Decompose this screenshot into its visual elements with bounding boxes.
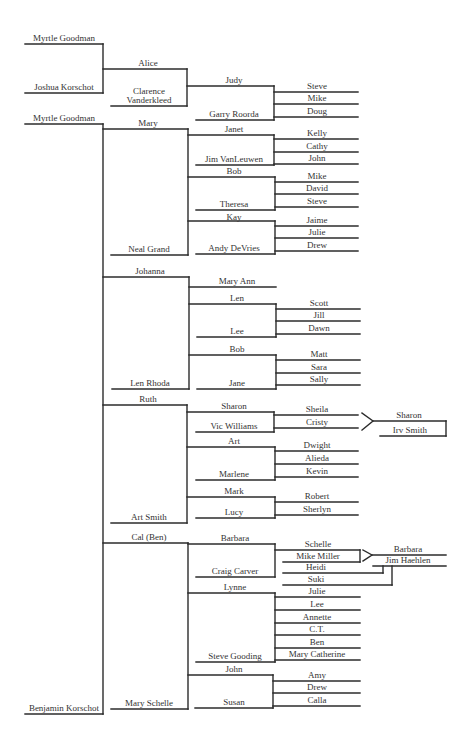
- lines-johanna-len: [103, 277, 276, 389]
- child-label: Kelly: [307, 128, 327, 138]
- child-label: John: [308, 153, 325, 163]
- child-label: Robert: [305, 491, 330, 501]
- parent-a-label: Sharon: [221, 401, 247, 411]
- child-label: David: [306, 183, 328, 193]
- parent-b-label: Joshua Korschot: [34, 82, 94, 92]
- parent-b-label: Lucy: [225, 507, 244, 517]
- lines-mary-neal: [103, 129, 188, 255]
- parent-a-label: Alice: [138, 58, 158, 68]
- parent-b-label: Lee: [230, 326, 244, 336]
- parent-a-label: Ruth: [139, 394, 157, 404]
- child-label: Sara: [311, 362, 327, 372]
- parent-b-label: Craig Carver: [212, 566, 259, 576]
- parent-a-label: Cal (Ben): [131, 532, 166, 542]
- child-label: Mike: [308, 93, 327, 103]
- lines-bob-theresa: [188, 177, 358, 210]
- parent-a-label: Mary: [138, 118, 158, 128]
- lines-mark-lucy: [187, 497, 358, 518]
- child-label: Schelle: [305, 539, 332, 549]
- parent-b-label: Mary Schelle: [125, 698, 173, 708]
- parent-a-label: Myrtle Goodman: [33, 113, 95, 123]
- child-label: Mary Ann: [219, 276, 256, 286]
- parent-b-label: Neal Grand: [128, 244, 170, 254]
- parent-b-label: Irv Smith: [393, 425, 427, 435]
- child-label: Heidi: [306, 562, 326, 572]
- parent-b-label: Andy DeVries: [208, 243, 260, 253]
- parent-a-label: Sharon: [396, 410, 422, 420]
- child-label: Mike: [308, 171, 327, 181]
- child-label: Alieda: [305, 453, 329, 463]
- parent-b-label: Benjamin Korschot: [29, 703, 99, 713]
- child-label: Dwight: [304, 440, 331, 450]
- child-label: Sally: [310, 374, 329, 384]
- parent-b-label: Garry Roorda: [209, 109, 259, 119]
- parent-b-label: Steve Gooding: [208, 651, 262, 661]
- parent-a-label: Myrtle Goodman: [33, 33, 95, 43]
- parent-a-label: Lynne: [224, 582, 247, 592]
- child-label: Steve: [307, 196, 327, 206]
- child-label: Drew: [307, 682, 327, 692]
- parent-a-label: Johanna: [135, 266, 165, 276]
- parent-b-label: Vic Williams: [210, 421, 257, 431]
- child-label: Cristy: [306, 417, 328, 427]
- parent-b-label: Jim VanLeuwen: [205, 154, 263, 164]
- parent-a-label: Len: [230, 293, 244, 303]
- child-label: C.T.: [309, 624, 324, 634]
- child-label: Cathy: [306, 141, 328, 151]
- child-label: Jill: [313, 310, 324, 320]
- child-label: Calla: [308, 695, 327, 705]
- parent-a-label: Janet: [225, 124, 244, 134]
- child-label: Jaime: [307, 215, 328, 225]
- parent-a-label: John: [225, 664, 242, 674]
- child-label: Doug: [307, 106, 327, 116]
- child-label: Drew: [307, 240, 327, 250]
- family-tree-page: Myrtle Goodman Joshua Korschot Myrtle Go…: [0, 0, 467, 737]
- spouse-label: Mike Miller: [296, 551, 340, 561]
- child-label: Suki: [308, 574, 325, 584]
- lines-len-lee: [189, 304, 360, 337]
- child-label: Julie: [309, 586, 326, 596]
- parent-b-label: Len Rhoda: [130, 378, 170, 388]
- parent-b-label-line2: Vanderkleed: [127, 95, 172, 105]
- parent-b-label: Marlene: [219, 469, 249, 479]
- child-label: Matt: [311, 349, 328, 359]
- parent-a-label: Judy: [225, 75, 242, 85]
- child-label: Julie: [309, 227, 326, 237]
- child-label: Scott: [310, 298, 329, 308]
- parent-b-label: Theresa: [220, 199, 248, 209]
- parent-a-label: Mark: [224, 486, 244, 496]
- parent-b-label: Susan: [223, 697, 245, 707]
- child-label: Kevin: [306, 466, 328, 476]
- parent-a-label: Kay: [227, 212, 242, 222]
- parent-a-label: Bob: [226, 166, 241, 176]
- child-label: Annette: [303, 612, 332, 622]
- child-label: Sheila: [306, 404, 329, 414]
- parent-a-label: Art: [228, 436, 240, 446]
- parent-a-label: Barbara: [394, 544, 422, 554]
- parent-a-label: Barbara: [221, 533, 249, 543]
- child-label: Mary Catherine: [289, 649, 346, 659]
- lines-art-marlene: [187, 447, 358, 480]
- lines-john-susan: [188, 675, 360, 708]
- child-label: Dawn: [308, 323, 330, 333]
- child-label: Amy: [308, 670, 326, 680]
- child-label: Ben: [310, 637, 325, 647]
- child-label: Lee: [310, 599, 324, 609]
- child-label: Sherlyn: [303, 504, 331, 514]
- lines-cal-mary: [103, 543, 188, 709]
- lines-ruth-art: [103, 405, 187, 523]
- lines-bob-jane: [189, 355, 360, 389]
- child-label: Steve: [307, 81, 327, 91]
- parent-b-label: Jim Haehlen: [385, 555, 430, 565]
- parent-b-label: Jane: [229, 378, 245, 388]
- parent-b-label: Art Smith: [131, 512, 167, 522]
- lines-myrtle-benjamin: [25, 124, 103, 714]
- parent-a-label: Bob: [229, 344, 244, 354]
